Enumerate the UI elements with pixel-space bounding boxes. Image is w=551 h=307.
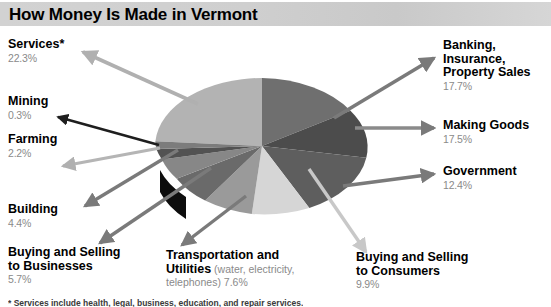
arrow-banking [334, 58, 434, 118]
label-banking-line2: Insurance, [443, 52, 506, 66]
label-making-goods-name: Making Goods [443, 118, 529, 132]
label-services-pct: 22.3% [8, 52, 64, 65]
label-consumers: Buying and Selling to Consumers 9.9% [356, 251, 469, 291]
label-government: Government 12.4% [443, 165, 517, 192]
chart-page: How Money Is Made in Vermont [0, 0, 551, 307]
label-transportation: Transportation and Utilities (water, ele… [166, 249, 294, 290]
slice-services [155, 78, 262, 146]
label-government-name: Government [443, 164, 517, 178]
label-transportation-line1: Transportation and [166, 248, 279, 262]
label-mining-pct: 0.3% [8, 109, 48, 122]
label-farming-pct: 2.2% [8, 147, 57, 160]
label-businesses: Buying and Selling to Businesses 5.7% [8, 246, 121, 286]
label-mining: Mining 0.3% [8, 95, 48, 122]
label-transportation-line2: Utilities [166, 262, 211, 276]
label-banking: Banking, Insurance, Property Sales 17.7% [443, 39, 531, 93]
footnote: * Services include health, legal, busine… [8, 298, 303, 307]
arrow-farming [63, 148, 160, 166]
label-banking-line3: Property Sales [443, 65, 531, 79]
label-farming: Farming 2.2% [8, 133, 57, 160]
label-transportation-note2: telephones) 7.6% [166, 276, 248, 288]
label-businesses-line2: to Businesses [8, 259, 93, 273]
label-consumers-line1: Buying and Selling [356, 250, 469, 264]
label-businesses-pct: 5.7% [8, 273, 121, 286]
label-government-pct: 12.4% [443, 179, 517, 192]
label-consumers-line2: to Consumers [356, 264, 440, 278]
label-mining-name: Mining [8, 94, 48, 108]
label-banking-line1: Banking, [443, 38, 496, 52]
label-making-goods-pct: 17.5% [443, 133, 529, 146]
arrow-services [83, 52, 198, 104]
label-making-goods: Making Goods 17.5% [443, 119, 529, 146]
label-banking-pct: 17.7% [443, 80, 531, 93]
label-businesses-line1: Buying and Selling [8, 245, 121, 259]
label-building-name: Building [8, 202, 58, 216]
label-building: Building 4.4% [8, 203, 58, 230]
label-building-pct: 4.4% [8, 217, 58, 230]
label-transportation-note: (water, electricity, [211, 263, 294, 275]
label-services: Services* 22.3% [8, 38, 64, 65]
label-farming-name: Farming [8, 132, 57, 146]
label-services-name: Services* [8, 37, 64, 51]
arrow-mining [58, 117, 159, 145]
label-consumers-pct: 9.9% [356, 278, 469, 291]
